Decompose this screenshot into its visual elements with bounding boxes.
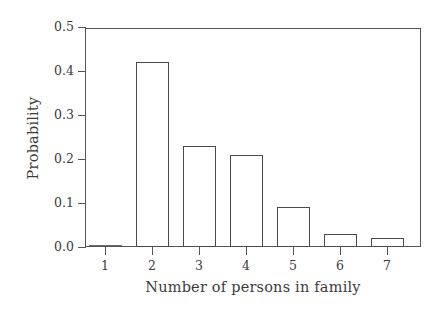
x-axis-tick [387, 247, 388, 255]
x-axis-tick [105, 247, 106, 255]
bar-category-6 [324, 234, 357, 247]
y-axis-tick [78, 247, 86, 248]
y-axis-tick-label: 0.1 [28, 195, 74, 210]
bar-category-1 [89, 245, 122, 247]
x-axis-tick-label: 3 [179, 258, 219, 273]
x-axis-tick [293, 247, 294, 255]
x-axis-tick-label: 6 [320, 258, 360, 273]
probability-bar-chart: Probability 0.00.10.20.30.40.5 1234567 N… [0, 0, 446, 312]
y-axis-tick [78, 71, 86, 72]
bar-category-2 [136, 62, 169, 247]
y-axis-tick [78, 203, 86, 204]
bar-category-4 [230, 155, 263, 247]
y-axis-title: Probability [22, 18, 44, 258]
y-axis-tick-label: 0.4 [28, 63, 74, 78]
x-axis-tick-label: 2 [132, 258, 172, 273]
y-axis-tick-label: 0.0 [28, 239, 74, 254]
y-axis-tick-label: 0.5 [28, 19, 74, 34]
x-axis-tick [152, 247, 153, 255]
x-axis-title: Number of persons in family [85, 279, 421, 295]
x-axis-tick [199, 247, 200, 255]
x-axis-tick-label: 7 [367, 258, 407, 273]
y-axis-tick [78, 115, 86, 116]
x-axis-tick-label: 4 [226, 258, 266, 273]
x-axis-tick-label: 5 [273, 258, 313, 273]
bar-category-3 [183, 146, 216, 247]
x-axis-tick [246, 247, 247, 255]
x-axis-tick [340, 247, 341, 255]
y-axis-tick [78, 27, 86, 28]
y-axis-tick-label: 0.2 [28, 151, 74, 166]
bar-category-7 [371, 238, 404, 247]
y-axis-tick [78, 159, 86, 160]
y-axis-tick-label: 0.3 [28, 107, 74, 122]
bar-category-5 [277, 207, 310, 247]
x-axis-tick-label: 1 [85, 258, 125, 273]
